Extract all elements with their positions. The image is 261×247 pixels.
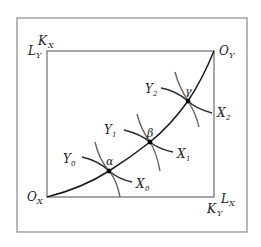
svg-text:X: X	[176, 147, 186, 161]
svg-text:0: 0	[71, 160, 76, 168]
inner-box	[47, 51, 214, 197]
label-y0: Y 0	[63, 152, 76, 168]
point-gamma	[186, 99, 191, 104]
label-gamma: γ	[185, 85, 192, 98]
contract-curve	[47, 51, 214, 197]
svg-text:1: 1	[186, 155, 190, 163]
svg-text:O: O	[27, 190, 37, 204]
outer-frame	[17, 18, 247, 232]
label-x1: X 1	[176, 147, 190, 163]
label-y2: Y 2	[145, 82, 158, 98]
svg-text:X: X	[47, 41, 54, 50]
label-lx: L X	[220, 192, 235, 208]
label-kx: K X	[37, 34, 54, 50]
label-beta: β	[146, 127, 153, 140]
svg-text:Y: Y	[36, 51, 42, 60]
point-alpha	[107, 169, 112, 174]
svg-text:L: L	[27, 44, 36, 58]
label-y1: Y 1	[104, 123, 116, 139]
svg-text:O: O	[219, 44, 229, 58]
svg-text:1: 1	[112, 131, 116, 139]
label-origin-x: O X	[27, 190, 43, 206]
label-x2: X 2	[216, 106, 231, 122]
label-alpha: α	[106, 155, 114, 168]
svg-text:X: X	[36, 197, 43, 206]
svg-text:X: X	[228, 199, 235, 208]
svg-text:K: K	[37, 34, 48, 48]
edgeworth-box-diagram: α β γ Y 0 Y 1 Y 2 X 0 X 1 X 2 K X L Y L …	[0, 0, 261, 247]
label-x0: X 0	[135, 177, 150, 193]
svg-text:X: X	[216, 106, 226, 120]
svg-text:2: 2	[225, 114, 231, 122]
svg-text:L: L	[220, 192, 229, 206]
svg-text:Y: Y	[217, 209, 223, 218]
svg-text:X: X	[135, 177, 145, 191]
svg-text:K: K	[206, 202, 217, 216]
label-origin-y: O Y	[219, 44, 235, 60]
svg-text:Y: Y	[229, 51, 235, 60]
svg-text:2: 2	[152, 90, 158, 98]
point-beta	[148, 140, 153, 145]
svg-text:0: 0	[145, 185, 150, 193]
